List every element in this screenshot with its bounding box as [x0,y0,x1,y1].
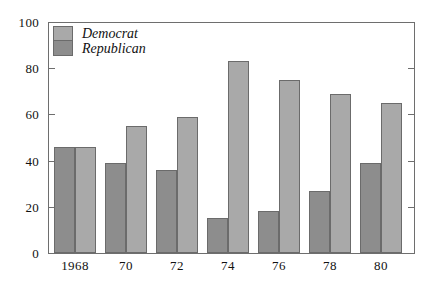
bar-republican-78 [309,191,330,253]
legend-label-democrat: Democrat [82,26,146,41]
legend: Democrat Republican [53,26,146,56]
bars-layer [48,22,415,253]
y-axis-tick-label: 0 [0,247,39,260]
bar-democrat-76 [279,80,300,253]
y-axis-tick-label: 100 [0,16,39,29]
legend-label-republican: Republican [82,41,146,56]
legend-swatch-republican [54,41,72,55]
legend-swatch-democrat [54,27,72,41]
bar-republican-76 [258,211,279,253]
bar-democrat-70 [126,126,147,253]
bar-democrat-74 [228,61,249,253]
bar-chart: 020406080100 1968707274767880 Democrat R… [0,0,430,287]
y-axis-tick-label: 80 [0,62,39,75]
bar-republican-72 [156,170,177,253]
bar-republican-80 [360,163,381,253]
legend-label-group: Democrat Republican [82,26,146,56]
y-axis-tick-label: 20 [0,201,39,214]
bar-democrat-80 [381,103,402,253]
x-axis-line [48,253,415,254]
bar-democrat-78 [330,94,351,253]
bar-republican-70 [105,163,126,253]
legend-swatch-group [53,26,73,56]
bar-republican-74 [207,218,228,253]
bar-democrat-72 [177,117,198,253]
y-axis-tick-label: 60 [0,108,39,121]
y-axis-tick-label: 40 [0,155,39,168]
bar-republican-1968 [54,147,75,253]
bar-democrat-1968 [75,147,96,253]
x-axis-tick-label: 80 [351,258,411,273]
